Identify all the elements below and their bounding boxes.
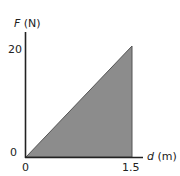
y-tick-0: 0 [10, 147, 17, 159]
x-axis-unit: (m) [157, 150, 176, 163]
y-axis-label: F (N) [14, 18, 41, 30]
y-axis-unit: (N) [24, 17, 41, 30]
x-axis-var: d [147, 150, 154, 163]
y-tick-20: 20 [8, 44, 22, 56]
y-axis-var: F [14, 17, 20, 30]
shaded-area [26, 46, 132, 157]
x-tick-1-5: 1.5 [122, 162, 140, 174]
x-tick-0: 0 [22, 162, 29, 174]
x-axis-label: d (m) [147, 151, 177, 163]
